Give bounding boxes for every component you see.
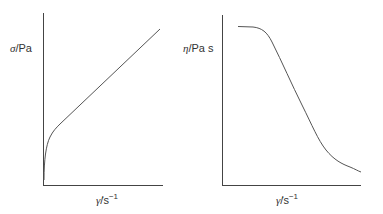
stress-curve — [44, 29, 160, 180]
right-plot — [222, 15, 361, 186]
right-y-axis-label: η/Pa s — [183, 42, 214, 54]
left-y-axis-label: σ/Pa — [10, 42, 32, 54]
viscosity-curve — [238, 27, 361, 173]
left-x-unit: /s — [100, 194, 109, 206]
right-x-unit: /s — [280, 194, 289, 206]
charts-canvas — [0, 0, 383, 214]
left-x-exponent: −1 — [109, 192, 118, 201]
left-x-axis-label: γ̇/s−1 — [96, 192, 118, 206]
left-plot — [43, 13, 163, 186]
left-y-unit: /Pa — [15, 42, 32, 54]
right-x-exponent: −1 — [289, 192, 298, 201]
right-x-axis-label: γ̇/s−1 — [276, 192, 298, 206]
right-y-unit: /Pa s — [188, 42, 213, 54]
